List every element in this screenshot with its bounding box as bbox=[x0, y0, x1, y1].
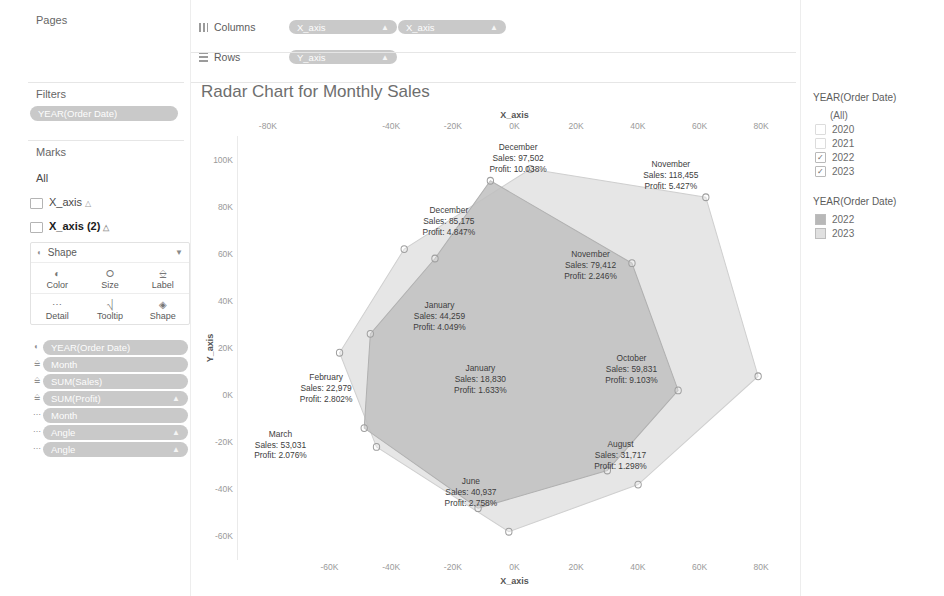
columns-pill-x-axis-1[interactable]: X_axis ▲ bbox=[289, 20, 397, 34]
columns-shelf-label: Columns bbox=[199, 21, 261, 33]
data-label: DecemberSales: 97,502Profit: 10.038% bbox=[490, 142, 547, 174]
filter-item-label: (All) bbox=[830, 110, 848, 121]
data-point-marker[interactable] bbox=[675, 387, 681, 394]
data-label-sales: Sales: 53,031 bbox=[254, 440, 307, 451]
data-point-marker[interactable] bbox=[367, 330, 373, 337]
worksheet-main: Columns X_axis ▲ X_axis ▲ Rows bbox=[190, 0, 800, 596]
data-point-marker[interactable] bbox=[703, 194, 709, 201]
data-label-profit: Profit: 2.802% bbox=[300, 394, 353, 405]
color-button[interactable]: ◐ Color bbox=[31, 263, 84, 293]
mark-pill-angle[interactable]: Angle ▲ bbox=[43, 425, 188, 440]
mark-pill-label: Angle bbox=[51, 442, 75, 457]
mark-pill-year-order-date[interactable]: YEAR(Order Date) bbox=[43, 340, 188, 355]
checkbox-icon[interactable]: ✓ bbox=[815, 152, 826, 163]
mark-pill-row: ⎒ SUM(Profit) ▲ bbox=[30, 391, 188, 405]
filter-item-2021[interactable]: 2021 bbox=[801, 136, 944, 150]
marks-tab-x-axis-2[interactable]: X_axis (2)△ bbox=[30, 220, 109, 233]
top-axis-ticks[interactable]: -80K-40K-20K0K20K40K60K80K bbox=[237, 121, 792, 133]
filter-item-all[interactable]: (All) bbox=[801, 108, 944, 122]
filter-item-2020[interactable]: 2020 bbox=[801, 122, 944, 136]
data-label: JanuarySales: 18,830Profit: 1.633% bbox=[454, 363, 507, 395]
label-shelf-icon: ⎒ bbox=[30, 360, 43, 368]
filter-item-label: 2023 bbox=[832, 166, 854, 177]
mark-type-selector[interactable]: ◐ Shape ▼ bbox=[31, 243, 189, 263]
marks-tab-all-label: All bbox=[36, 172, 48, 184]
marks-tab-x-axis[interactable]: X_axis△ bbox=[30, 196, 91, 209]
label-shelf-icon-2: ⎒ bbox=[30, 377, 43, 385]
checkbox-icon[interactable] bbox=[815, 138, 826, 149]
pill-caret-icon: ▲ bbox=[166, 442, 180, 457]
top-axis-title: X_axis bbox=[237, 110, 792, 120]
axis-tick: 20K bbox=[569, 562, 584, 572]
size-button[interactable]: ⭘ Size bbox=[84, 263, 137, 293]
left-sidebar: Pages Filters YEAR(Order Date) Marks All… bbox=[0, 0, 190, 596]
data-label-profit: Profit: 2.758% bbox=[445, 498, 498, 509]
shape-type-icon: ◐ bbox=[37, 248, 42, 257]
bottom-axis-ticks[interactable]: -60K-40K-20K0K20K40K60K80K bbox=[237, 562, 792, 574]
label-button[interactable]: ⎒ Label bbox=[136, 263, 189, 293]
size-icon: ⭘ bbox=[84, 267, 137, 280]
rows-shelf[interactable]: Rows Y_axis ▲ bbox=[191, 46, 800, 68]
axis-tick: 60K bbox=[692, 121, 707, 131]
data-point-marker[interactable] bbox=[755, 373, 761, 380]
data-point-marker[interactable] bbox=[373, 444, 379, 451]
data-label-month: January bbox=[454, 363, 507, 374]
data-point-marker[interactable] bbox=[487, 177, 493, 184]
shape-button[interactable]: ◈ Shape bbox=[136, 294, 189, 324]
mark-pill-row: ⋯ Angle ▲ bbox=[30, 425, 188, 439]
mark-pill-sum-profit[interactable]: SUM(Profit) ▲ bbox=[43, 391, 188, 406]
data-point-marker[interactable] bbox=[401, 246, 407, 253]
filter-item-2023[interactable]: ✓2023 bbox=[801, 164, 944, 178]
data-label-profit: Profit: 1.633% bbox=[454, 385, 507, 396]
pill-caret-icon: ▲ bbox=[375, 20, 389, 34]
detail-button[interactable]: ⋯ Detail bbox=[31, 294, 84, 324]
mark-pill-month-detail[interactable]: Month bbox=[43, 408, 188, 423]
divider-pages bbox=[28, 82, 184, 83]
mark-type-label: Shape bbox=[48, 247, 77, 258]
checkbox-icon[interactable] bbox=[815, 111, 824, 120]
mark-pills-list: ◐ YEAR(Order Date) ⎒ Month ⎒ SUM(Sales) bbox=[30, 340, 188, 459]
columns-shelf[interactable]: Columns X_axis ▲ X_axis ▲ bbox=[191, 16, 800, 38]
axis-tick: -60K bbox=[321, 562, 339, 572]
color-legend-items: 20222023 bbox=[801, 212, 944, 240]
checkbox-icon[interactable] bbox=[815, 124, 826, 135]
filter-item-2022[interactable]: ✓2022 bbox=[801, 150, 944, 164]
checkbox-icon[interactable]: ✓ bbox=[815, 166, 826, 177]
plot-canvas[interactable]: Y_axis 100K80K60K40K20K0K-20K-40K-60K De… bbox=[237, 136, 792, 560]
data-point-marker[interactable] bbox=[336, 349, 342, 356]
axis-tick: -80K bbox=[259, 121, 277, 131]
detail-shelf-icon-2: ⋯ bbox=[30, 428, 43, 436]
data-label-profit: Profit: 9.103% bbox=[605, 375, 658, 386]
data-label: FebruarySales: 22,979Profit: 2.802% bbox=[300, 372, 353, 404]
data-point-marker[interactable] bbox=[506, 528, 512, 535]
columns-pill-x-axis-2[interactable]: X_axis ▲ bbox=[398, 20, 506, 34]
tooltip-button[interactable]: ⎷ Tooltip bbox=[84, 294, 137, 324]
data-label-sales: Sales: 40,937 bbox=[445, 487, 498, 498]
data-point-marker[interactable] bbox=[635, 481, 641, 488]
legend-swatch bbox=[815, 214, 826, 225]
mark-pill-month[interactable]: Month bbox=[43, 357, 188, 372]
data-point-marker[interactable] bbox=[361, 425, 367, 432]
data-label: JanuarySales: 44,259Profit: 4.049% bbox=[413, 300, 466, 332]
pill-label: X_axis bbox=[297, 20, 326, 34]
mark-pill-row: ⋯ Month bbox=[30, 408, 188, 422]
marks-title: Marks bbox=[0, 146, 190, 158]
data-point-marker[interactable] bbox=[629, 260, 635, 267]
pill-label: X_axis bbox=[406, 20, 435, 34]
mark-pill-angle-2[interactable]: Angle ▲ bbox=[43, 442, 188, 457]
label-shelf-icon-3: ⎒ bbox=[30, 394, 43, 402]
data-label-month: March bbox=[254, 429, 307, 440]
marks-section: Marks bbox=[0, 146, 190, 158]
filter-item-label: 2021 bbox=[832, 138, 854, 149]
filter-pill-year[interactable]: YEAR(Order Date) bbox=[30, 106, 178, 121]
color-icon: ◐ bbox=[31, 267, 84, 280]
data-label: NovemberSales: 79,412Profit: 2.246% bbox=[564, 249, 617, 281]
mark-pill-sum-sales[interactable]: SUM(Sales) bbox=[43, 374, 188, 389]
axis-tick: 0K bbox=[509, 562, 519, 572]
data-label-profit: Profit: 4.847% bbox=[423, 227, 476, 238]
legend-item-2022[interactable]: 2022 bbox=[801, 212, 944, 226]
legend-item-2023[interactable]: 2023 bbox=[801, 226, 944, 240]
marks-tab-all[interactable]: All bbox=[0, 172, 190, 184]
data-label: NovemberSales: 118,455Profit: 5.427% bbox=[643, 159, 698, 191]
data-point-marker[interactable] bbox=[432, 255, 438, 262]
